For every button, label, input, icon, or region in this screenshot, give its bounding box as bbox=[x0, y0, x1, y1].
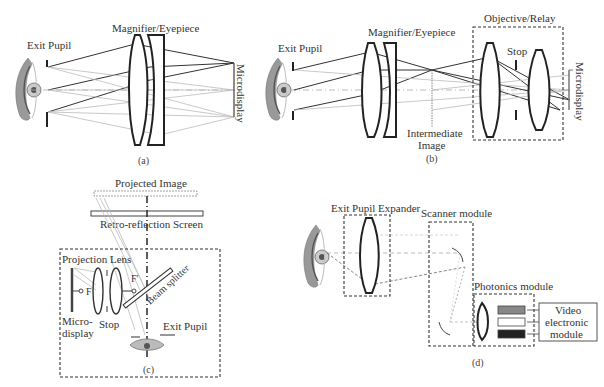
caption-b: (b) bbox=[426, 153, 438, 165]
label-electronic: electronic bbox=[545, 316, 588, 328]
label-exit-pupil: Exit Pupil bbox=[27, 39, 71, 51]
label-exit-pupil-expander: Exit Pupil Expander bbox=[331, 202, 421, 214]
eyepiece-lens-1 bbox=[362, 43, 382, 137]
eye-icon bbox=[266, 58, 291, 120]
caption-c: (c) bbox=[143, 364, 154, 376]
focal-point-f bbox=[79, 289, 83, 293]
label-projection-lens: Projection Lens bbox=[62, 253, 131, 265]
blue-source bbox=[498, 330, 525, 338]
caption-a: (a) bbox=[138, 155, 149, 167]
label-projected-image: Projected Image bbox=[115, 177, 187, 189]
green-source bbox=[498, 318, 525, 326]
eye-icon bbox=[304, 225, 329, 287]
panel-a: Exit Pupil Magnifier/Eyepiece Microdispl… bbox=[16, 22, 247, 167]
label-microdisplay: Microdisplay bbox=[574, 62, 586, 121]
label-intermediate: Intermediate bbox=[407, 127, 463, 139]
projected-image-plane bbox=[94, 191, 197, 196]
label-f: F bbox=[86, 286, 92, 297]
label-module: module bbox=[550, 328, 583, 340]
scan-arrow-bottom-icon bbox=[439, 322, 450, 335]
magnifier-lens-1 bbox=[129, 35, 148, 145]
label-exit-pupil: Exit Pupil bbox=[163, 320, 207, 332]
objective-lens-1 bbox=[480, 43, 500, 137]
label-scanner-module: Scanner module bbox=[421, 207, 492, 219]
scanner-module-box bbox=[429, 222, 473, 346]
objective-lens-2 bbox=[529, 50, 550, 130]
photonics-lens bbox=[478, 303, 489, 340]
label-microdisplay: Microdisplay bbox=[235, 64, 247, 123]
label-video: Video bbox=[555, 304, 582, 316]
projection-lens-1 bbox=[93, 268, 103, 314]
red-source bbox=[498, 306, 525, 314]
label-image: Image bbox=[418, 139, 446, 151]
label-exit-pupil: Exit Pupil bbox=[278, 42, 322, 54]
focal-point-f-prime bbox=[132, 289, 136, 293]
optical-systems-figure: Exit Pupil Magnifier/Eyepiece Microdispl… bbox=[0, 0, 604, 387]
panel-d: Exit Pupil Expander Scanner module Photo… bbox=[304, 202, 597, 369]
label-objective-relay: Objective/Relay bbox=[484, 12, 556, 24]
label-micro: Micro- bbox=[62, 315, 93, 327]
eye-icon bbox=[16, 58, 41, 120]
label-magnifier: Magnifier/Eyepiece bbox=[112, 22, 199, 34]
label-stop: Stop bbox=[507, 45, 528, 57]
system-box bbox=[60, 249, 220, 377]
panel-b: Exit Pupil Magnifier/Eyepiece Objective/… bbox=[266, 12, 586, 165]
label-display: display bbox=[62, 327, 94, 339]
scan-arrow-top-icon bbox=[452, 248, 463, 262]
label-stop: Stop bbox=[99, 318, 120, 330]
epe-lens bbox=[360, 218, 379, 293]
label-f-prime: F' bbox=[131, 273, 139, 284]
panel-c: Projected Image Retro-reflection Screen … bbox=[60, 177, 220, 377]
label-magnifier: Magnifier/Eyepiece bbox=[368, 26, 455, 38]
label-photonics-module: Photonics module bbox=[474, 280, 553, 292]
caption-d: (d) bbox=[472, 357, 484, 369]
